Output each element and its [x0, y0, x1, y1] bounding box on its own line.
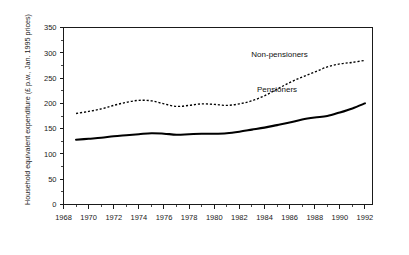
x-tick-label: 1982: [231, 213, 248, 222]
y-tick-label: 150: [44, 124, 57, 133]
y-tick-label: 50: [48, 175, 56, 184]
series-annotations: Non-pensionersPensioners: [251, 50, 307, 94]
chart-figure: 050100150200250300350 196819701972197419…: [0, 0, 409, 255]
x-tick-label: 1976: [156, 213, 173, 222]
line-chart: 050100150200250300350 196819701972197419…: [0, 0, 409, 255]
x-tick-label: 1970: [80, 213, 97, 222]
x-tick-label: 1980: [206, 213, 223, 222]
x-tick-label: 1988: [306, 213, 323, 222]
x-tick-label: 1978: [181, 213, 198, 222]
y-tick-label: 300: [44, 49, 57, 58]
x-tick-label: 1992: [357, 213, 374, 222]
y-tick-label: 250: [44, 74, 57, 83]
series-lines: [76, 60, 365, 139]
x-tick-label: 1968: [55, 213, 72, 222]
series-line-pensioners: [76, 103, 365, 139]
y-axis: 050100150200250300350: [44, 23, 64, 209]
annotation-pensioners: Pensioners: [257, 85, 297, 94]
y-tick-label: 100: [44, 150, 57, 159]
x-tick-label: 1972: [105, 213, 122, 222]
x-tick-label: 1986: [281, 213, 298, 222]
y-tick-label: 200: [44, 99, 57, 108]
x-tick-label: 1984: [256, 213, 273, 222]
annotation-non-pensioners: Non-pensioners: [251, 50, 307, 59]
y-axis-title: Household equivalent expenditure (£ p.w.…: [23, 14, 32, 205]
x-axis: 1968197019721974197619781980198219841986…: [55, 205, 373, 222]
series-line-non-pensioners: [76, 60, 365, 113]
y-tick-label: 0: [52, 200, 56, 209]
y-tick-label: 350: [44, 23, 57, 32]
x-tick-label: 1990: [331, 213, 348, 222]
x-tick-label: 1974: [131, 213, 148, 222]
